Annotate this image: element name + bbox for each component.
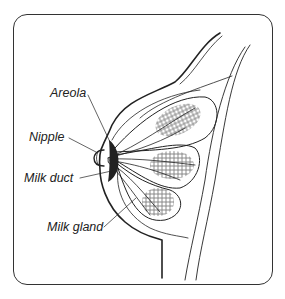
label-nipple: Nipple (29, 131, 64, 144)
chest-wall (196, 45, 250, 280)
breast-anatomy-illustration (0, 0, 285, 299)
label-areola: Areola (50, 87, 86, 100)
label-milk-gland: Milk gland (47, 221, 103, 234)
label-milk-duct: Milk duct (24, 172, 73, 185)
